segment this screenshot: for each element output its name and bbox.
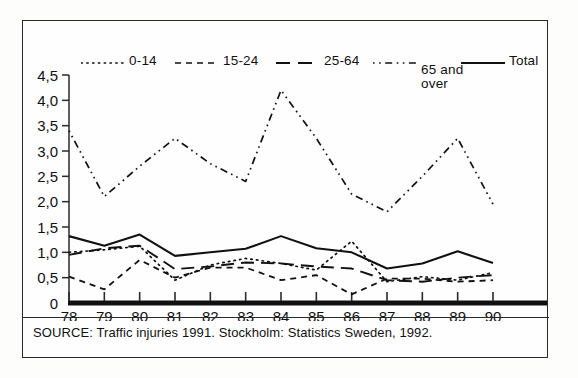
y-axis-tick-label: 0,5 <box>37 269 58 286</box>
x-axis-tick-label: 87 <box>379 308 396 321</box>
x-axis-tick-label: 85 <box>308 308 325 321</box>
x-axis-tick-label: 88 <box>414 308 431 321</box>
y-axis-tick-label: 3,0 <box>37 143 58 160</box>
x-axis-tick-label: 89 <box>449 308 466 321</box>
source-divider <box>23 317 549 318</box>
series-line-65-and-over <box>69 90 493 212</box>
series-line-25-64 <box>69 246 493 282</box>
figure-chart-traffic-injuries: 0-14 15-24 25-64 <box>0 0 578 378</box>
chart-frame: 0-14 15-24 25-64 <box>22 20 548 358</box>
y-axis-tick-label: 2,5 <box>37 168 58 185</box>
y-axis-tick-label: 4,5 <box>37 67 58 84</box>
series-line-15-24 <box>69 260 493 294</box>
y-axis-tick-label: 2,0 <box>37 193 58 210</box>
y-axis-tick-label: 3,5 <box>37 117 58 134</box>
plot-area: 00,51,01,52,02,53,03,54,04,5787980818283… <box>23 21 549 359</box>
source-note: SOURCE: Traffic injuries 1991. Stockholm… <box>33 325 432 340</box>
chart-svg: 00,51,01,52,02,53,03,54,04,5787980818283… <box>23 21 549 321</box>
y-axis-tick-label: 4,0 <box>37 92 58 109</box>
x-axis-tick-label: 82 <box>202 308 219 321</box>
x-axis-tick-label: 78 <box>61 308 78 321</box>
x-axis-tick-label: 81 <box>167 308 184 321</box>
y-axis-tick-label: 1,0 <box>37 244 58 261</box>
x-axis-tick-label: 83 <box>237 308 254 321</box>
y-axis-tick-label: 0 <box>50 295 58 312</box>
x-axis-tick-label: 80 <box>131 308 148 321</box>
x-axis-tick-label: 90 <box>485 308 502 321</box>
x-axis-tick-label: 79 <box>96 308 113 321</box>
x-axis-tick-label: 86 <box>343 308 360 321</box>
x-axis-tick-label: 84 <box>273 308 290 321</box>
y-axis-tick-label: 1,5 <box>37 219 58 236</box>
